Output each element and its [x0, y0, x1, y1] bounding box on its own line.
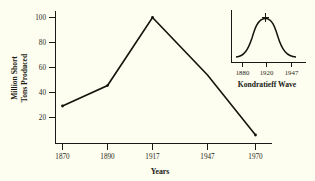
- x-tick-label-1870: 1870: [55, 153, 70, 161]
- inset-chart-title: Kondratieff Wave: [238, 80, 297, 89]
- x-axis-title: Years: [151, 167, 170, 176]
- chart-svg: 100 80 60 40 20 1870 1890 1917 1947 1970…: [0, 0, 315, 181]
- x-tick-label-1890: 1890: [100, 153, 115, 161]
- x-tick-label-1917: 1917: [145, 153, 160, 161]
- y-tick-label-20: 20: [39, 114, 47, 122]
- inset-x-tick-label-1947: 1947: [285, 69, 299, 76]
- y-tick-label-40: 40: [39, 89, 47, 97]
- y-axis-title-line1: Million Short: [10, 56, 19, 100]
- data-point-1917: [151, 16, 154, 19]
- chart-figure: 100 80 60 40 20 1870 1890 1917 1947 1970…: [0, 0, 315, 181]
- x-tick-label-1970: 1970: [248, 153, 263, 161]
- x-tick-label-1947: 1947: [200, 153, 215, 161]
- inset-x-tick-label-1920: 1920: [260, 69, 274, 76]
- data-point-1890: [106, 84, 109, 87]
- data-point-1870: [61, 105, 64, 108]
- data-point-1970: [254, 134, 257, 137]
- y-tick-label-80: 80: [39, 39, 47, 47]
- y-axis-title-line2: Tons Produced: [20, 53, 29, 102]
- inset-x-tick-label-1880: 1880: [236, 69, 250, 76]
- y-tick-label-100: 100: [35, 14, 46, 22]
- y-tick-label-60: 60: [39, 64, 47, 72]
- inset-x-axis-tick-labels: 1880 1920 1947: [236, 69, 299, 76]
- y-axis-title: Million Short Tons Produced: [10, 53, 29, 102]
